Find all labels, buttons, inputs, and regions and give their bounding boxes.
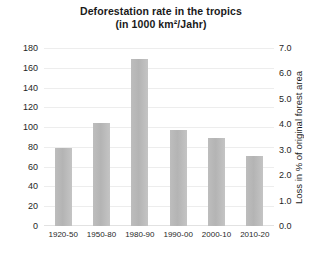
plot-area: [44, 48, 274, 226]
x-axis-tick: 2000-10: [197, 230, 235, 239]
x-axis-tick: 1990-00: [159, 230, 197, 239]
y-left-tick: 80: [28, 143, 38, 152]
bar-slot: [82, 48, 120, 226]
y-left-tick: 180: [23, 44, 38, 53]
bar-slot: [44, 48, 82, 226]
chart-title-line2: (in 1000 km²/Jahr): [0, 18, 322, 31]
x-axis-tick: 1920-50: [44, 230, 82, 239]
x-axis: 1920-501950-801980-901990-002000-102010-…: [44, 230, 274, 239]
chart-title: Deforestation rate in the tropics (in 10…: [0, 5, 322, 31]
bar: [246, 156, 263, 226]
y-left-tick: 40: [28, 182, 38, 191]
x-axis-tick: 1980-90: [121, 230, 159, 239]
y-right-tick: 3.0: [279, 146, 292, 155]
y-right-tick: 2.0: [279, 171, 292, 180]
y-left-tick: 0: [33, 222, 38, 231]
chart-title-line1: Deforestation rate in the tropics: [80, 5, 242, 17]
y-left-tick: 120: [23, 103, 38, 112]
bar-series: [44, 48, 274, 226]
bar: [170, 130, 187, 226]
y-axis-right-title: Loss in % of original forest area: [291, 48, 305, 226]
y-right-tick: 6.0: [279, 69, 292, 78]
y-left-tick: 160: [23, 64, 38, 73]
bar-slot: [159, 48, 197, 226]
bar-slot: [236, 48, 274, 226]
x-axis-tick: 1950-80: [82, 230, 120, 239]
y-right-tick: 5.0: [279, 95, 292, 104]
y-right-tick: 7.0: [279, 44, 292, 53]
y-axis-left: 180 160 140 120 100 80 60 40 20 0: [14, 48, 38, 226]
y-right-tick: 1.0: [279, 197, 292, 206]
y-right-tick: 4.0: [279, 120, 292, 129]
y-right-tick: 0.0: [279, 222, 292, 231]
bar-slot: [197, 48, 235, 226]
bar: [55, 148, 72, 226]
y-left-tick: 100: [23, 123, 38, 132]
bar-slot: [121, 48, 159, 226]
deforestation-bar-chart: Deforestation rate in the tropics (in 10…: [0, 0, 322, 266]
x-axis-tick: 2010-20: [236, 230, 274, 239]
bar: [93, 123, 110, 226]
y-left-tick: 20: [28, 202, 38, 211]
bar: [131, 59, 148, 226]
y-left-tick: 60: [28, 163, 38, 172]
bar: [208, 138, 225, 226]
y-left-tick: 140: [23, 84, 38, 93]
